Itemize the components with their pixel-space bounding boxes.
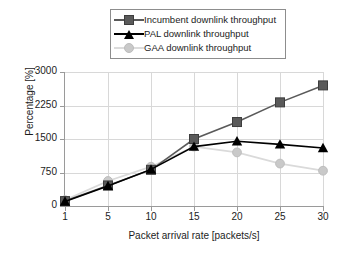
legend-sample-incumbent	[114, 14, 144, 26]
chart-figure: Incumbent downlink throughput PAL downli…	[0, 0, 363, 266]
data-point-square	[233, 118, 242, 127]
data-point-circle	[233, 148, 242, 157]
triangle-icon	[124, 30, 134, 39]
legend-label-incumbent: Incumbent downlink throughput	[144, 14, 276, 26]
legend-sample-gaa	[114, 42, 144, 54]
data-point-square	[319, 81, 328, 90]
chart-legend: Incumbent downlink throughput PAL downli…	[110, 9, 286, 59]
x-tick-label: 20	[222, 211, 252, 222]
legend-label-gaa: GAA downlink throughput	[144, 42, 251, 54]
legend-item-gaa: GAA downlink throughput	[114, 41, 281, 55]
legend-label-pal: PAL downlink throughput	[144, 28, 249, 40]
data-point-square	[276, 98, 285, 107]
plot-area: 0750150022503000151015202530 Percentage …	[64, 72, 323, 207]
y-tick-label: 0	[13, 199, 57, 210]
y-tick-label: 1500	[13, 132, 57, 143]
x-tick-label: 5	[93, 211, 123, 222]
legend-item-pal: PAL downlink throughput	[114, 27, 281, 41]
y-tick-label: 3000	[13, 65, 57, 76]
x-tick-label: 30	[308, 211, 338, 222]
x-tick-label: 10	[136, 211, 166, 222]
legend-item-incumbent: Incumbent downlink throughput	[114, 13, 281, 27]
y-tick-label: 750	[13, 166, 57, 177]
y-tick-label: 2250	[13, 99, 57, 110]
circle-icon	[124, 43, 134, 53]
x-axis-title: Packet arrival rate [packets/s]	[65, 230, 323, 241]
gridline-vertical	[323, 72, 324, 206]
x-tick-label: 25	[265, 211, 295, 222]
data-point-circle	[276, 159, 285, 168]
x-tick-label: 1	[50, 211, 80, 222]
series-layer	[65, 72, 323, 206]
series-line-circle	[65, 147, 323, 201]
y-axis-title: Percentage [%]	[24, 57, 35, 147]
legend-sample-pal	[114, 28, 144, 40]
square-icon	[124, 15, 134, 25]
x-tick-label: 15	[179, 211, 209, 222]
data-point-circle	[319, 166, 328, 175]
